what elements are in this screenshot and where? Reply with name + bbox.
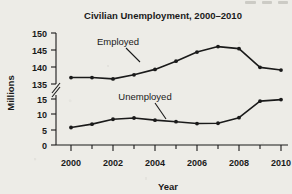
x-tick-label-2000: 2000	[61, 158, 81, 168]
y-axis-ticks-upper: 150 145 140 135	[32, 29, 56, 90]
series-label-unemployed: Unemployed	[118, 91, 171, 102]
data-point	[237, 116, 241, 120]
data-point	[111, 117, 115, 121]
annotation-employed: Employed	[97, 36, 140, 62]
y-axis-title: Millions	[5, 75, 16, 110]
annotation-leader-line-employed	[126, 48, 140, 62]
x-axis-title: Year	[158, 181, 178, 192]
series-markers-employed	[69, 45, 283, 81]
data-point	[90, 76, 94, 80]
x-tick-label-2008: 2008	[229, 158, 249, 168]
y-axis-ticks-lower: 15 10 5 0	[37, 95, 56, 151]
y-tick-label-150: 150	[32, 29, 47, 39]
data-point	[153, 118, 157, 122]
data-point	[258, 65, 262, 69]
data-point	[153, 67, 157, 71]
chart-figure: Civilian Unemployment, 2000–2010 Million…	[0, 0, 292, 194]
data-point	[174, 59, 178, 63]
y-tick-label-140: 140	[32, 63, 47, 73]
x-tick-label-2002: 2002	[103, 158, 123, 168]
data-point	[174, 120, 178, 124]
data-point	[90, 122, 94, 126]
data-point	[195, 50, 199, 54]
y-tick-label-135: 135	[32, 80, 47, 90]
annotation-leader-line-unemployed	[155, 103, 166, 119]
x-tick-label-2004: 2004	[145, 158, 165, 168]
x-tick-label-2010: 2010	[271, 158, 291, 168]
data-point	[132, 73, 136, 77]
x-axis-ticks	[71, 145, 281, 151]
unemployment-line-chart: Civilian Unemployment, 2000–2010 Million…	[0, 0, 292, 194]
data-point	[279, 98, 283, 102]
y-tick-label-5: 5	[42, 126, 47, 136]
y-tick-label-10: 10	[37, 110, 47, 120]
y-axis-break-icon	[52, 83, 60, 97]
y-tick-label-15: 15	[37, 95, 47, 105]
data-point	[216, 45, 220, 49]
data-point	[237, 47, 241, 51]
data-point	[69, 126, 73, 130]
data-point	[195, 122, 199, 126]
chart-title: Civilian Unemployment, 2000–2010	[84, 10, 242, 21]
y-tick-label-0: 0	[42, 141, 47, 151]
x-axis-tick-labels: 2000 2002 2004 2006 2008 2010	[61, 158, 291, 168]
x-tick-label-2006: 2006	[187, 158, 207, 168]
data-point	[69, 76, 73, 80]
annotation-unemployed: Unemployed	[118, 91, 171, 119]
data-point	[279, 68, 283, 72]
series-markers-unemployed	[69, 98, 283, 130]
y-tick-label-145: 145	[32, 46, 47, 56]
data-point	[111, 77, 115, 81]
data-point	[132, 116, 136, 120]
data-point	[216, 121, 220, 125]
series-label-employed: Employed	[97, 36, 139, 47]
data-point	[258, 99, 262, 103]
